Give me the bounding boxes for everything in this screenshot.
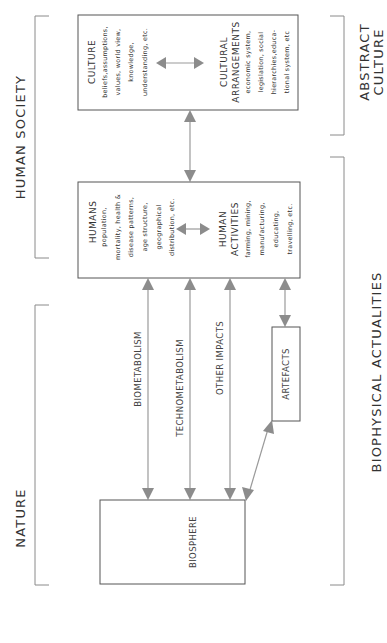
artefacts-title: ARTEFACTS (281, 348, 291, 400)
society-nature-diagram: HUMAN SOCIETY NATURE ABSTRACT CULTURE BI… (0, 0, 387, 643)
double-arrow-activities-artefacts (279, 278, 291, 327)
human-activities-title-2: ACTIVITIES (230, 202, 240, 256)
bracket-human-society (35, 16, 49, 258)
cultural-arrangements-line-3: hierarchies,educa- (270, 30, 278, 95)
humans-line-2: mortality, health & (114, 194, 122, 260)
bracket-biophysical-actualities (330, 157, 344, 585)
arrow-biometabolism (142, 278, 154, 500)
humans-title: HUMANS (88, 201, 98, 244)
section-label-abstract-culture-1: ABSTRACT (357, 23, 372, 101)
biosphere-box (100, 500, 245, 584)
human-activities-line-4: travelling, etc. (286, 203, 294, 254)
label-technometabolism: TECHNOMETABOLISM (175, 339, 185, 438)
humans-box (78, 182, 300, 278)
humans-line-6: distribution, etc. (168, 198, 176, 256)
human-activities-line-3: educating, (272, 211, 280, 248)
culture-title: CULTURE (87, 40, 97, 84)
cultural-arrangements-line-4: tional system, etc (283, 31, 291, 94)
double-arrow-artefacts-biosphere (242, 420, 274, 501)
bracket-nature (35, 305, 49, 585)
cultural-arrangements-title-1: CULTURAL (219, 37, 229, 87)
culture-line-3: knowledge, (127, 42, 135, 82)
humans-line-1: population, (100, 207, 108, 246)
section-label-biophysical-actualities: BIOPHYSICAL ACTUALITIES (369, 272, 384, 473)
humans-line-5: geographical (155, 204, 163, 249)
double-arrow-culture-humans (184, 110, 196, 182)
label-biometabolism: BIOMETABOLISM (133, 331, 143, 407)
section-label-abstract-culture-2: CULTURE (371, 28, 386, 95)
cultural-arrangements-line-1: economic system, (244, 31, 252, 94)
human-activities-line-2: manufacturing, (258, 202, 266, 255)
bracket-abstract-culture (330, 16, 344, 135)
human-activities-line-1: farming, mining, (244, 200, 252, 258)
humans-line-4: age structure, (141, 202, 149, 251)
cultural-arrangements-title-2: ARRANGEMENTS (231, 21, 241, 102)
culture-line-4: understanding, etc. (141, 28, 149, 96)
arrow-technometabolism (184, 278, 196, 500)
culture-line-1: beliefs,assumptions, (101, 26, 109, 98)
cultural-arrangements-line-2: legislation, social (257, 32, 265, 93)
human-activities-title-1: HUMAN (218, 211, 228, 248)
section-label-nature: NATURE (13, 488, 28, 548)
label-other-impacts: OTHER IMPACTS (215, 321, 225, 395)
section-label-human-society: HUMAN SOCIETY (13, 75, 28, 199)
arrow-other-impacts (224, 278, 236, 500)
humans-line-3: disease patterns, (127, 197, 135, 257)
biosphere-title: BIOSPHERE (188, 516, 198, 568)
culture-line-2: values, world view, (114, 29, 122, 96)
